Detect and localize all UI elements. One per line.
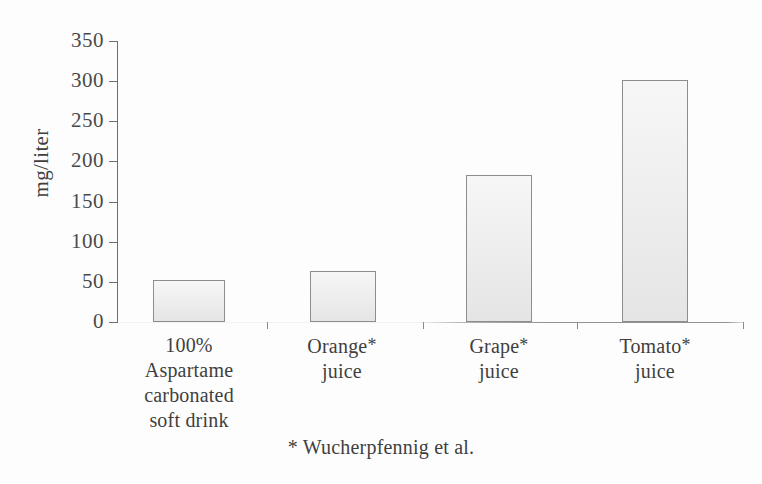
x-tick-mark (743, 322, 744, 329)
bar (153, 280, 225, 322)
y-tick-label-text: 200 (38, 150, 104, 171)
y-tick-label-text: 250 (38, 110, 104, 131)
y-tick-label-text: 300 (38, 70, 104, 91)
x-axis-line (117, 322, 743, 323)
y-tick-label-text: 50 (38, 271, 104, 292)
x-axis-category-label: Tomato*juice (577, 333, 733, 384)
y-tick-mark (109, 81, 117, 82)
y-tick-label-text: 350 (38, 30, 104, 51)
y-axis-line (117, 41, 118, 323)
x-tick-mark (423, 322, 424, 329)
bar (310, 271, 376, 322)
footnote-marker: * (519, 335, 528, 355)
category-label-line: juice (421, 359, 577, 384)
y-tick-label-text: 100 (38, 231, 104, 252)
chart-page: mg/liter 050100150200250300350 100%Aspar… (0, 0, 762, 484)
x-tick-mark (267, 322, 268, 329)
category-label-line: Orange* (262, 333, 422, 359)
y-tick-label-text: 0 (38, 311, 104, 332)
category-label-line: soft drink (99, 408, 279, 433)
y-tick-label: 200 (30, 150, 104, 171)
y-tick-label: 300 (30, 70, 104, 91)
y-tick-mark (109, 282, 117, 283)
y-tick-label: 250 (30, 110, 104, 131)
y-tick-label: 350 (30, 30, 104, 51)
y-tick-label-text: 150 (38, 191, 104, 212)
bar (466, 175, 532, 322)
y-tick-mark (109, 161, 117, 162)
y-tick-label: 150 (30, 191, 104, 212)
category-label-line: juice (262, 359, 422, 384)
footnote-marker: * (367, 335, 376, 355)
chart-footnote: * Wucherpfennig et al. (0, 436, 762, 458)
y-tick-mark (109, 121, 117, 122)
x-axis-category-label: 100%Aspartamecarbonatedsoft drink (99, 333, 279, 433)
bar (622, 80, 688, 322)
y-tick-mark (109, 242, 117, 243)
x-axis-category-label: Orange*juice (262, 333, 422, 384)
y-tick-mark (109, 202, 117, 203)
y-tick-label: 50 (30, 271, 104, 292)
y-tick-mark (109, 322, 117, 323)
category-label-line: Tomato* (577, 333, 733, 359)
category-label-line: Aspartame (99, 358, 279, 383)
y-tick-label: 0 (30, 311, 104, 332)
bar-chart-plot: mg/liter 050100150200250300350 100%Aspar… (0, 0, 762, 484)
footnote-marker: * (681, 335, 690, 355)
y-tick-label: 100 (30, 231, 104, 252)
category-label-line: Grape* (421, 333, 577, 359)
category-label-line: carbonated (99, 383, 279, 408)
x-axis-category-label: Grape*juice (421, 333, 577, 384)
category-label-line: 100% (99, 333, 279, 358)
x-tick-mark (577, 322, 578, 329)
category-label-line: juice (577, 359, 733, 384)
y-tick-mark (109, 41, 117, 42)
